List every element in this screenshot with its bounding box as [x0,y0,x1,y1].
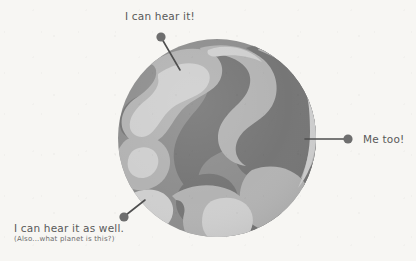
pin-dot-top[interactable] [156,32,165,41]
leader-line-bottom [126,200,145,215]
planet-shading [118,39,316,237]
illustration-canvas: I can hear it! Me too! I can hear it as … [0,0,416,261]
callout-text-bottom: I can hear it as well. [14,222,124,234]
callout-subtext-bottom: (Also...what planet is this?) [14,235,124,244]
callout-label-right: Me too! [363,133,404,145]
pin-dot-right[interactable] [343,134,352,143]
callout-label-bottom: I can hear it as well. (Also...what plan… [14,222,124,244]
pin-dot-bottom[interactable] [119,212,128,221]
planet-surface-patterns [115,32,328,252]
callout-text-right: Me too! [363,133,404,145]
callout-text-top: I can hear it! [125,10,195,22]
callout-label-top: I can hear it! [125,10,195,22]
